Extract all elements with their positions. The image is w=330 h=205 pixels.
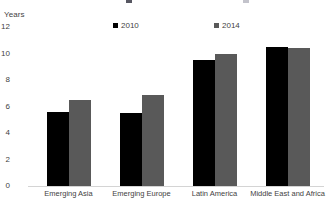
x-axis-tick-label: Emerging Europe	[112, 189, 170, 198]
bar-2014	[288, 48, 310, 186]
bar-2010	[120, 113, 142, 186]
bar-2014	[142, 95, 164, 186]
bar-group	[47, 27, 91, 186]
plot-area	[32, 27, 324, 186]
y-axis-tick-label: 12	[1, 23, 10, 31]
clipped-legend-marker-icon	[126, 0, 132, 3]
clipped-legend-marker-secondary-icon	[243, 0, 249, 3]
bar-group	[193, 27, 237, 186]
y-axis-tick-label: 6	[6, 103, 10, 111]
y-axis-tick-label: 10	[1, 50, 10, 58]
bar-group	[120, 27, 164, 186]
bar-2010	[193, 60, 215, 186]
bar-group	[266, 27, 310, 186]
x-axis-tick-labels: Emerging AsiaEmerging EuropeLatin Americ…	[0, 189, 330, 205]
bar-2014	[215, 54, 237, 187]
y-axis-tick-label: 2	[6, 156, 10, 164]
bar-chart: Years 2010 2014 024681012 Emerging AsiaE…	[0, 0, 330, 205]
bar-2010	[266, 47, 288, 186]
bar-2010	[47, 112, 69, 186]
x-axis-tick-label: Emerging Asia	[44, 189, 92, 198]
x-axis-tick-label: Middle East and Africa	[250, 189, 325, 198]
x-axis-tick-label: Latin America	[192, 189, 237, 198]
y-axis-tick-labels: 024681012	[0, 0, 30, 205]
x-axis-baseline	[28, 186, 324, 187]
y-axis-tick-label: 4	[6, 129, 10, 137]
y-axis-tick-label: 8	[6, 76, 10, 84]
bar-2014	[69, 100, 91, 186]
